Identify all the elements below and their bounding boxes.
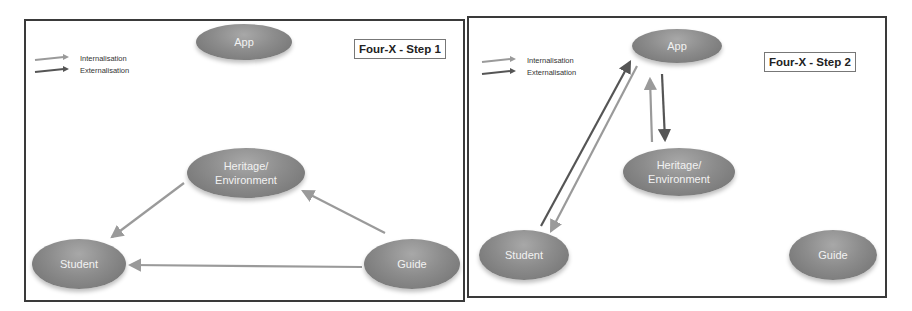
node-app: App [632, 29, 722, 63]
legend: Internalisation Externalisation [481, 54, 576, 78]
arrow-app-to-heritage [662, 74, 665, 140]
arrow-heritage-to-app [650, 79, 652, 142]
step1-title: Four-X - Step 1 [354, 39, 446, 59]
arrow-student-to-app [541, 62, 630, 226]
legend-externalisation: Externalisation [80, 66, 129, 75]
node-student: Student [32, 239, 126, 289]
legend-internalisation: Internalisation [80, 54, 127, 63]
step1-panel: Internalisation Externalisation Four-X -… [24, 19, 465, 302]
legend: Internalisation Externalisation [34, 52, 129, 76]
arrow-app-to-student [551, 66, 637, 231]
node-heritage-environment: Heritage/Environment [623, 148, 735, 196]
node-guide: Guide [364, 239, 460, 289]
step2-title: Four-X - Step 2 [764, 52, 856, 72]
legend-externalisation: Externalisation [527, 68, 576, 77]
legend-internalisation: Internalisation [527, 56, 574, 65]
node-student: Student [479, 230, 569, 280]
node-heritage-environment: Heritage/Environment [187, 148, 305, 198]
step2-panel: Internalisation Externalisation Four-X -… [467, 16, 887, 298]
node-guide: Guide [789, 230, 877, 280]
arrow-guide-to-student [130, 265, 362, 267]
arrow-guide-to-heritage [303, 191, 385, 233]
node-app: App [196, 24, 292, 60]
arrow-heritage-to-student [112, 183, 184, 237]
